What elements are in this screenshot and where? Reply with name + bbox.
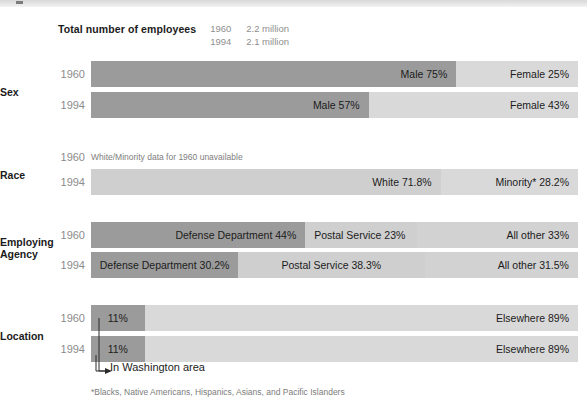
- bar-row-year: 1960: [55, 61, 85, 87]
- bar-segment-label: Postal Service 23%: [305, 222, 405, 248]
- bar-segment-label: Elsewhere 89%: [496, 305, 578, 331]
- bar-row: 1994Male 57%Female 43%: [0, 92, 587, 118]
- bar-segment-label: Male 75%: [401, 61, 457, 87]
- bar-segment-label: Female 43%: [510, 92, 578, 118]
- bar-segment-label: Minority* 28.2%: [495, 169, 578, 195]
- bar-segment[interactable]: Minority* 28.2%: [441, 169, 578, 195]
- chart-header: Total number of employees 1960 2.2 milli…: [58, 22, 289, 48]
- bar-segment[interactable]: Elsewhere 89%: [145, 336, 578, 362]
- bar-segment-label: Defense Department 44%: [175, 222, 305, 248]
- bar-segment-label: Male 57%: [313, 92, 369, 118]
- bar-segment-label: All other 33%: [507, 222, 578, 248]
- stacked-bar[interactable]: White 71.8%Minority* 28.2%: [91, 169, 578, 195]
- total-employees-row: 1960 2.2 million: [210, 22, 289, 35]
- chart-page: Total number of employees 1960 2.2 milli…: [0, 0, 587, 411]
- bar-segment[interactable]: White 71.8%: [91, 169, 441, 195]
- stacked-bar[interactable]: Male 57%Female 43%: [91, 92, 578, 118]
- page-top-band-mark: [16, 1, 23, 4]
- bar-row-year: 1960: [55, 144, 85, 170]
- footnote: *Blacks, Native Americans, Hispanics, As…: [91, 387, 345, 397]
- total-employees-list: 1960 2.2 million 1994 2.1 million: [210, 22, 289, 48]
- total-employees-year: 1994: [210, 35, 246, 48]
- bar-row-year: 1994: [55, 169, 85, 195]
- page-top-band: [0, 0, 587, 7]
- bar-row-note: White/Minority data for 1960 unavailable: [91, 144, 243, 170]
- bar-row-year: 1994: [55, 252, 85, 278]
- bar-segment[interactable]: All other 31.5%: [425, 252, 578, 278]
- stacked-bar[interactable]: Defense Department 30.2%Postal Service 3…: [91, 252, 578, 278]
- bar-row-year: 1994: [55, 92, 85, 118]
- bar-segment-label: 11%: [108, 336, 128, 362]
- bar-segment[interactable]: Elsewhere 89%: [145, 305, 578, 331]
- bar-row: 1960White/Minority data for 1960 unavail…: [0, 144, 587, 170]
- bar-segment[interactable]: Male 75%: [91, 61, 456, 87]
- total-employees-value: 2.1 million: [246, 35, 289, 48]
- bar-row: 196011%Elsewhere 89%: [0, 305, 587, 331]
- washington-callout-label: In Washington area: [110, 361, 205, 373]
- chart-title: Total number of employees: [58, 22, 196, 35]
- stacked-bar[interactable]: 11%Elsewhere 89%: [91, 336, 578, 362]
- bar-row: 1994Defense Department 30.2%Postal Servi…: [0, 252, 587, 278]
- bar-segment-label: Elsewhere 89%: [496, 336, 578, 362]
- bar-segment-label: All other 31.5%: [498, 252, 578, 278]
- bar-segment[interactable]: 11%: [91, 336, 145, 362]
- bar-segment-label: Female 25%: [510, 61, 578, 87]
- bar-segment[interactable]: Male 57%: [91, 92, 369, 118]
- bar-row-year: 1960: [55, 305, 85, 331]
- stacked-bar[interactable]: 11%Elsewhere 89%: [91, 305, 578, 331]
- bar-segment-label: Defense Department 30.2%: [100, 252, 230, 278]
- bar-row: 1960Defense Department 44%Postal Service…: [0, 222, 587, 248]
- bar-segment[interactable]: Female 25%: [456, 61, 578, 87]
- bar-segment[interactable]: Defense Department 30.2%: [91, 252, 238, 278]
- bar-segment[interactable]: Defense Department 44%: [91, 222, 305, 248]
- bar-segment[interactable]: 11%: [91, 305, 145, 331]
- bar-segment[interactable]: Postal Service 23%: [305, 222, 417, 248]
- bar-segment-label: Postal Service 38.3%: [281, 252, 381, 278]
- stacked-bar[interactable]: Defense Department 44%Postal Service 23%…: [91, 222, 578, 248]
- bar-segment-label: White 71.8%: [372, 169, 441, 195]
- bar-row: 1960Male 75%Female 25%: [0, 61, 587, 87]
- bar-segment[interactable]: All other 33%: [417, 222, 578, 248]
- bar-row-year: 1960: [55, 222, 85, 248]
- bar-segment[interactable]: Female 43%: [369, 92, 578, 118]
- bar-row: 199411%Elsewhere 89%: [0, 336, 587, 362]
- bar-segment-label: 11%: [108, 305, 128, 331]
- stacked-bar[interactable]: Male 75%Female 25%: [91, 61, 578, 87]
- bar-row-year: 1994: [55, 336, 85, 362]
- total-employees-value: 2.2 million: [246, 22, 289, 35]
- total-employees-row: 1994 2.1 million: [210, 35, 289, 48]
- bar-segment[interactable]: Postal Service 38.3%: [238, 252, 425, 278]
- bar-row: 1994White 71.8%Minority* 28.2%: [0, 169, 587, 195]
- total-employees-year: 1960: [210, 22, 246, 35]
